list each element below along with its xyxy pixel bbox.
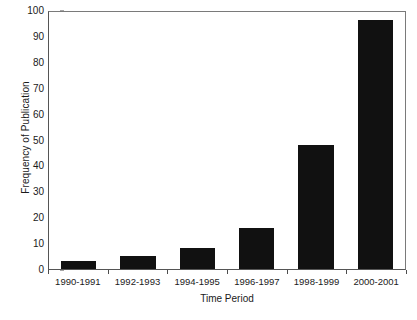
- bar-chart: Frequency of Publication 010203040506070…: [0, 0, 417, 320]
- x-tick-label: 2000-2001: [346, 276, 406, 288]
- plot-area: [48, 11, 406, 270]
- bar-slot: [346, 12, 405, 269]
- x-tick-mark: [287, 270, 288, 274]
- x-tick-mark: [167, 270, 168, 274]
- bar: [358, 20, 394, 269]
- y-tick-label: 100: [14, 6, 44, 16]
- y-tick-label: 20: [14, 213, 44, 223]
- x-tick-mark: [48, 270, 49, 274]
- x-tick-label: 1996-1997: [227, 276, 287, 288]
- y-tick-label: 80: [14, 58, 44, 68]
- y-tick-label: 50: [14, 136, 44, 146]
- x-axis-tick-labels: 1990-19911992-19931994-19951996-19971998…: [48, 276, 406, 288]
- y-tick-label: 0: [14, 265, 44, 275]
- x-tick-mark: [227, 270, 228, 274]
- x-tick-label: 1990-1991: [48, 276, 108, 288]
- x-tick-label: 1998-1999: [287, 276, 347, 288]
- y-tick-label: 30: [14, 187, 44, 197]
- bar: [180, 248, 216, 269]
- x-tick-label: 1994-1995: [167, 276, 227, 288]
- bar-slot: [227, 12, 286, 269]
- x-tick-mark: [406, 270, 407, 274]
- y-tick-label: 40: [14, 161, 44, 171]
- bar-series: [49, 12, 405, 269]
- bar-slot: [108, 12, 167, 269]
- bar: [298, 145, 334, 269]
- x-tick-mark: [108, 270, 109, 274]
- y-tick-label: 70: [14, 84, 44, 94]
- x-tick-label: 1992-1993: [108, 276, 168, 288]
- bar-slot: [168, 12, 227, 269]
- bar: [120, 256, 156, 269]
- x-tick-mark: [346, 270, 347, 274]
- x-axis-title: Time Period: [48, 293, 406, 304]
- bar-slot: [49, 12, 108, 269]
- y-axis-tick-labels: 0102030405060708090100: [14, 4, 44, 276]
- y-tick-label: 60: [14, 110, 44, 120]
- bar-slot: [286, 12, 345, 269]
- bar: [61, 261, 97, 269]
- y-tick-label: 10: [14, 239, 44, 249]
- y-tick-label: 90: [14, 32, 44, 42]
- bar: [239, 228, 275, 269]
